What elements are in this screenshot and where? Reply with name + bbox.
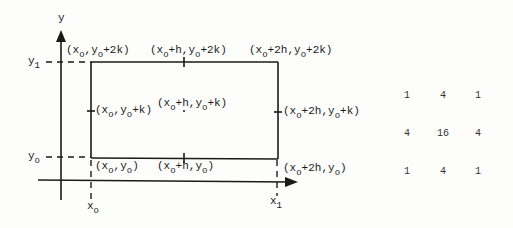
x0-label: xo [87, 200, 99, 212]
point-center: (xo+h,yo+k) [157, 97, 227, 109]
y1-label: y1 [28, 55, 40, 67]
x1-label: x1 [270, 195, 282, 207]
point-mid-left: (xo,yo+k) [95, 104, 152, 116]
weight-cell: 4 [431, 166, 455, 177]
weight-cell: 1 [395, 166, 419, 177]
center-dot [183, 110, 185, 112]
x-axis [38, 180, 290, 182]
y-axis-label: y [58, 12, 65, 24]
point-mid-right: (xo+2h,yo+k) [283, 105, 360, 117]
weight-cell: 4 [431, 90, 455, 101]
weight-cell: 1 [466, 90, 490, 101]
point-top-mid: (xo+h,yo+2k) [150, 44, 227, 56]
y-axis-arrow-icon [56, 30, 66, 42]
point-bot-right: (xo+2h,yo) [283, 162, 347, 174]
x-axis-arrow-icon [285, 177, 298, 187]
weight-cell: 4 [466, 128, 490, 139]
weight-cell: 16 [431, 128, 455, 139]
point-top-left: (xo,yo+2k) [66, 44, 130, 56]
point-bot-mid: (xo+h,yo) [157, 160, 214, 172]
weight-cell: 4 [395, 128, 419, 139]
point-bot-left: (xo,yo) [95, 160, 139, 172]
weight-matrix: 1 4 1 4 16 4 1 4 1 [395, 90, 505, 200]
point-top-right: (xo+2h,yo+2k) [249, 44, 332, 56]
weight-cell: 1 [395, 90, 419, 101]
y0-label: yo [28, 150, 40, 162]
weight-cell: 1 [466, 166, 490, 177]
